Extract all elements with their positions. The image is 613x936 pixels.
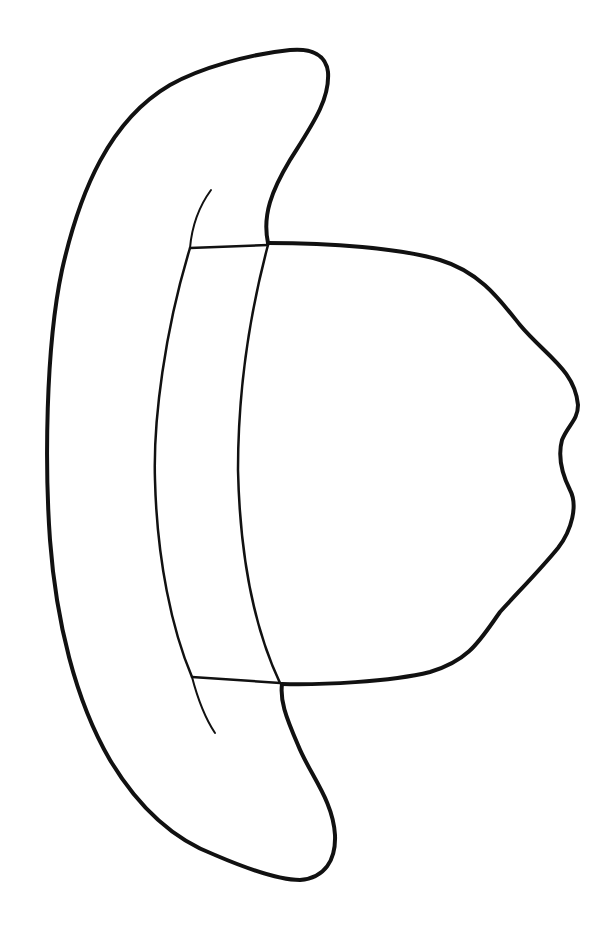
hatband-top-edge: [190, 245, 268, 248]
hatband-inner-curve: [155, 248, 192, 677]
hatband-bottom-edge: [192, 677, 280, 683]
cowboy-hat-icon: [0, 0, 613, 936]
hat-drawing-canvas: cowboy hat outline (rotated 90°, crown p…: [0, 0, 613, 936]
brim-fold-line-top: [190, 190, 211, 248]
brim-outline: [47, 50, 335, 880]
brim-fold-line-bottom: [192, 677, 215, 733]
crown-outline: [268, 243, 578, 684]
hatband-outer-curve: [238, 245, 280, 683]
